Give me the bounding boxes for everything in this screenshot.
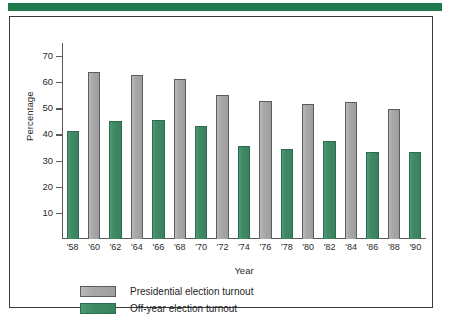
- x-tick-label: '84: [340, 243, 361, 252]
- bar-offyear: [281, 149, 293, 239]
- bar-offyear: [67, 131, 79, 239]
- legend-item: Off-year election turnout: [10, 300, 434, 317]
- bar-offyear: [238, 146, 250, 239]
- y-tick-label: 70: [42, 51, 53, 61]
- bar-slot: [340, 43, 361, 239]
- x-tick-label: '78: [276, 243, 297, 252]
- legend-swatch-presidential: [80, 286, 116, 297]
- x-tick-label: '64: [126, 243, 147, 252]
- x-tick-label: '58: [62, 243, 83, 252]
- bar-slot: [105, 43, 126, 239]
- top-green-banner: [8, 3, 442, 11]
- bar-presidential: [302, 104, 314, 239]
- bar-presidential: [259, 101, 271, 239]
- x-tick-label: '80: [298, 243, 319, 252]
- chart-frame: Percentage 10203040506070 '58'60'62'64'6…: [9, 16, 433, 308]
- bar-slot: [83, 43, 104, 239]
- legend-item: Presidential election turnout: [10, 283, 434, 300]
- legend-label: Presidential election turnout: [130, 286, 253, 297]
- bar-slot: [405, 43, 426, 239]
- bar-offyear: [152, 120, 164, 239]
- bar-offyear: [195, 126, 207, 239]
- x-tick-label: '62: [105, 243, 126, 252]
- bar-slot: [126, 43, 147, 239]
- bar-presidential: [388, 109, 400, 239]
- x-tick-label: '72: [212, 243, 233, 252]
- bar-slot: [298, 43, 319, 239]
- bar-slot: [362, 43, 383, 239]
- bar-presidential: [216, 95, 228, 239]
- plot-area: 10203040506070 '58'60'62'64'66'68'70'72'…: [62, 43, 426, 239]
- x-tick-label: '86: [362, 243, 383, 252]
- bar-slot: [212, 43, 233, 239]
- figure: Percentage 10203040506070 '58'60'62'64'6…: [0, 0, 450, 322]
- x-tick-label: '60: [83, 243, 104, 252]
- y-axis-title: Percentage: [24, 91, 35, 141]
- x-tick-label: '88: [383, 243, 404, 252]
- bar-slot: [319, 43, 340, 239]
- bar-presidential: [131, 75, 143, 239]
- x-tick-label: '82: [319, 243, 340, 252]
- x-axis-title: Year: [62, 265, 426, 276]
- bar-offyear: [109, 121, 121, 239]
- chart-legend: Presidential election turnoutOff-year el…: [10, 283, 434, 317]
- x-tick-label: '90: [405, 243, 426, 252]
- bar-slot: [190, 43, 211, 239]
- x-tick-label: '76: [255, 243, 276, 252]
- bar-offyear: [409, 152, 421, 239]
- bar-slot: [169, 43, 190, 239]
- bar-presidential: [174, 79, 186, 239]
- y-tick-label: 50: [42, 104, 53, 114]
- y-tick-label: 40: [42, 130, 53, 140]
- bar-slot: [62, 43, 83, 239]
- bar-slot: [383, 43, 404, 239]
- bar-offyear: [366, 152, 378, 239]
- legend-label: Off-year election turnout: [130, 303, 237, 314]
- bar-slot: [255, 43, 276, 239]
- bar-offyear: [323, 141, 335, 239]
- x-tick-label: '70: [190, 243, 211, 252]
- legend-swatch-offyear: [80, 303, 116, 314]
- bar-presidential: [345, 102, 357, 239]
- y-tick-label: 20: [42, 182, 53, 192]
- x-tick-label: '66: [148, 243, 169, 252]
- y-tick-label: 10: [42, 208, 53, 218]
- y-tick-label: 60: [42, 77, 53, 87]
- x-tick-label: '68: [169, 243, 190, 252]
- bar-slot: [276, 43, 297, 239]
- x-tick-label: '74: [233, 243, 254, 252]
- bar-slot: [233, 43, 254, 239]
- y-tick-label: 30: [42, 156, 53, 166]
- bar-presidential: [88, 72, 100, 239]
- bar-slot: [148, 43, 169, 239]
